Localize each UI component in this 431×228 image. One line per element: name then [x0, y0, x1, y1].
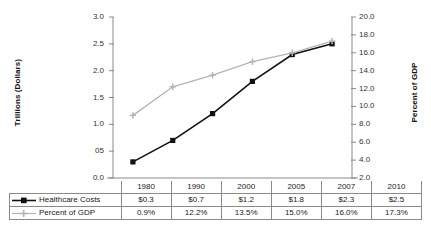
series-healthcare-costs [130, 41, 334, 164]
legend-entry[interactable]: Percent of GDP [10, 207, 122, 220]
table-cell: 17.3% [371, 207, 421, 220]
year-header-cell: 1990 [171, 181, 221, 194]
plus-line-marker-icon [12, 209, 36, 218]
series-layer [130, 38, 336, 165]
table-header-spacer [10, 181, 122, 194]
series-line [133, 44, 332, 162]
legend-label: Healthcare Costs [39, 194, 100, 206]
data-point-marker [130, 159, 135, 164]
table-cell: $2.3 [321, 194, 371, 207]
series-percent-of-gdp [130, 38, 336, 119]
year-header-cell: 2000 [221, 181, 271, 194]
table-header-row: 198019902000200520072010 [10, 181, 422, 194]
table-cell: $2.5 [371, 194, 421, 207]
table-cell: 15.0% [271, 207, 321, 220]
data-point-marker [250, 79, 255, 84]
table-cell: $1.8 [271, 194, 321, 207]
year-header-cell: 2010 [371, 181, 421, 194]
data-point-marker [249, 59, 255, 65]
data-point-marker [210, 111, 215, 116]
table-cell: 13.5% [221, 207, 271, 220]
square-line-marker-icon [12, 196, 36, 205]
year-header-cell: 2007 [321, 181, 371, 194]
table-cell: 12.2% [171, 207, 221, 220]
data-point-marker [170, 138, 175, 143]
legend-label: Percent of GDP [39, 207, 95, 219]
table-cell: $1.2 [221, 194, 271, 207]
table-cell: 0.9% [121, 207, 171, 220]
table-row: Healthcare Costs$0.3$0.7$1.2$1.8$2.3$2.5 [10, 194, 422, 207]
table-cell: $0.7 [171, 194, 221, 207]
table-cell: $0.3 [121, 194, 171, 207]
data-point-marker [209, 72, 215, 78]
year-header-cell: 1980 [121, 181, 171, 194]
table-cell: 16.0% [321, 207, 371, 220]
legend-data-table: 198019902000200520072010Healthcare Costs… [9, 181, 422, 220]
legend-entry[interactable]: Healthcare Costs [10, 194, 122, 207]
dual-axis-line-chart: Trillions (Dollars) Percent of GDP 0.005… [0, 0, 431, 228]
year-header-cell: 2005 [271, 181, 321, 194]
table-row: Percent of GDP0.9%12.2%13.5%15.0%16.0%17… [10, 207, 422, 220]
